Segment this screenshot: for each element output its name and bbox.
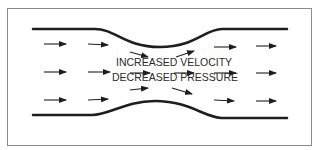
flow-arrow-icon xyxy=(130,88,148,90)
decreased-pressure-label: DECREASED PRESSURE xyxy=(112,71,238,83)
flow-arrow-icon xyxy=(88,99,108,100)
flow-arrow-icon xyxy=(88,44,108,45)
flow-arrow-icon xyxy=(214,100,234,101)
top-pipe-wall xyxy=(33,29,287,47)
increased-velocity-label: INCREASED VELOCITY xyxy=(116,56,232,68)
flow-arrow-icon xyxy=(172,88,192,94)
bottom-pipe-wall xyxy=(33,101,287,118)
